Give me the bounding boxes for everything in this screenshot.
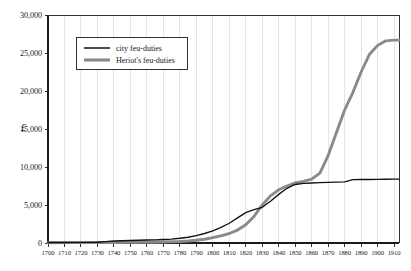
x-tick-label: 1840 [272,249,286,256]
x-tick-label: 1870 [322,249,336,256]
x-tick-label: 1910 [388,249,402,256]
x-tick-label: 1770 [157,249,171,256]
x-tick-label: 1820 [239,249,253,256]
y-tick-label: 10,000 [20,163,42,172]
chart-legend: city feu-duties Heriot's feu-duties [77,38,188,70]
x-tick-label: 1720 [75,249,89,256]
y-tick-label: 20,000 [20,87,42,96]
chart-container: 05,00010,00015,00020,00025,00030,000 170… [0,0,411,271]
y-tick-label: 30,000 [20,11,42,20]
y-tick-label: 0 [38,239,42,248]
y-tick-label: 5,000 [24,201,42,210]
x-tick-label: 1890 [355,249,369,256]
feu-duties-line-chart: 05,00010,00015,00020,00025,00030,000 170… [0,0,411,271]
x-tick-label: 1900 [371,249,385,256]
y-tick-label: 25,000 [20,49,42,58]
x-tick-label: 1860 [305,249,319,256]
x-tick-label: 1790 [190,249,204,256]
x-tick-label: 1700 [42,249,56,256]
legend-label-city-feu-duties: city feu-duties [116,44,162,53]
x-tick-label: 1780 [173,249,187,256]
x-tick-label: 1850 [289,249,303,256]
y-axis-unit-label: £ [21,122,26,133]
x-tick-label: 1800 [206,249,220,256]
x-tick-label: 1740 [108,249,122,256]
x-tick-label: 1760 [140,249,154,256]
legend-label-heriots-feu-duties: Heriot's feu-duties [116,56,175,65]
x-tick-label: 1880 [338,249,352,256]
x-tick-label: 1810 [223,249,237,256]
x-tick-label: 1710 [58,249,72,256]
x-tick-label: 1730 [91,249,105,256]
x-tick-label: 1830 [256,249,270,256]
x-tick-label: 1750 [124,249,138,256]
x-axis-tick-labels: 1700171017201730174017501760177017801790… [42,249,402,256]
